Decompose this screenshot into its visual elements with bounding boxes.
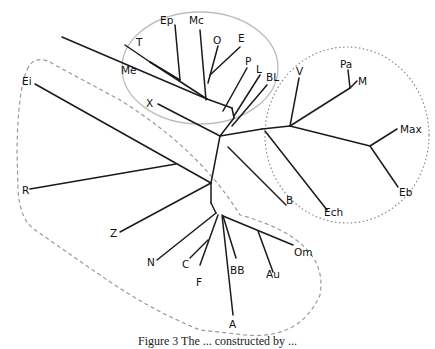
label-o: O [213,34,221,46]
label-r: R [22,184,29,196]
figure-caption: Figure 3 The ... constructed by ... [0,334,435,349]
label-a: A [229,318,237,330]
label-c: C [182,258,189,270]
label-pa: Pa [340,58,352,70]
tip-labels: Ep Mc T O E Me P L BL X V Pa M Max Eb Ec… [22,14,422,330]
label-x: X [146,97,153,109]
label-mc: Mc [189,14,204,26]
label-bb: BB [230,264,244,276]
label-t: T [135,36,143,48]
label-e: E [238,32,245,44]
label-ep: Ep [160,14,174,26]
label-max: Max [400,123,422,135]
label-b: B [286,194,293,206]
group-dashed-outline [17,60,321,336]
label-bl: BL [266,71,279,83]
label-f: F [196,276,202,288]
label-l: L [256,63,262,75]
label-m: M [358,75,367,87]
label-v: V [296,65,304,77]
label-n: N [147,256,155,268]
label-me: Me [121,64,137,76]
label-eb: Eb [399,186,413,198]
label-ech: Ech [324,206,343,218]
label-p: P [245,55,251,67]
label-om: Om [294,246,313,258]
label-au: Au [266,268,280,280]
label-z: Z [110,227,117,239]
label-ei: Ei [22,75,32,87]
